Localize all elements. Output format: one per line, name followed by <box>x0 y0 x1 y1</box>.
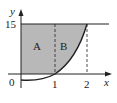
y-axis-label: y <box>9 5 15 17</box>
region-label-b: B <box>60 40 67 52</box>
y-arrow-icon <box>19 9 24 16</box>
x-axis-label: x <box>103 76 109 88</box>
tick-y15: 15 <box>5 18 17 30</box>
origin-label: 0 <box>9 76 15 88</box>
region-diagram: y x 0 15 1 2 A B <box>0 0 117 103</box>
region-label-a: A <box>33 40 41 52</box>
tick-x2: 2 <box>84 78 90 90</box>
tick-x1: 1 <box>52 78 58 90</box>
